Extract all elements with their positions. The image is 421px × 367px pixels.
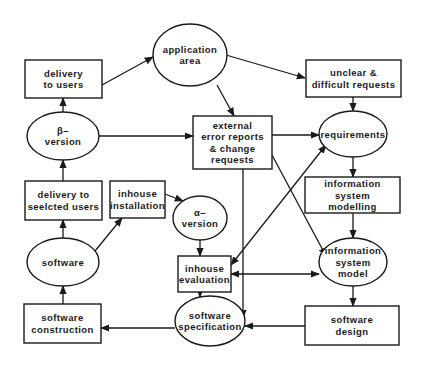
delivery-to-selected-users-label: delivery to xyxy=(38,189,90,200)
software-construction-label: software xyxy=(41,312,83,323)
external-error-reports-label: & change xyxy=(210,143,256,154)
inhouse-installation-label: installation xyxy=(110,200,165,211)
edge-inhouse-installation-to-alpha-version xyxy=(165,194,183,201)
software-design-label: software xyxy=(331,314,373,325)
inhouse-evaluation-label: evaluation xyxy=(179,274,230,285)
software-label: software xyxy=(42,257,84,268)
software-lifecycle-diagram: applicationareadeliveryto usersunclear &… xyxy=(0,0,421,367)
software-design-label: design xyxy=(335,326,368,337)
nodes-layer: applicationareadeliveryto usersunclear &… xyxy=(24,24,401,346)
information-system-modelling-label: system xyxy=(335,190,370,201)
node-information-system-model: informationsystemmodel xyxy=(319,238,387,286)
node-software: software xyxy=(27,238,99,286)
node-external-error-reports: externalerror reports& changerequests xyxy=(193,116,272,169)
node-inhouse-installation: inhouseinstallation xyxy=(110,181,165,218)
information-system-modelling-label: information xyxy=(324,178,381,189)
alpha-version-label: version xyxy=(182,218,219,229)
unclear-requests-label: difficult requests xyxy=(312,79,396,90)
node-software-construction: softwareconstruction xyxy=(24,304,101,343)
node-inhouse-evaluation: inhouseevaluation xyxy=(178,256,231,292)
node-unclear-requests: unclear &difficult requests xyxy=(306,60,401,97)
node-alpha-version: α–version xyxy=(173,196,227,240)
information-system-model-label: information xyxy=(325,245,382,256)
node-software-specification: softwarespecification xyxy=(175,296,245,346)
node-software-design: softwaredesign xyxy=(305,306,399,345)
information-system-modelling-label: modelling xyxy=(328,201,376,212)
inhouse-evaluation-label: inhouse xyxy=(185,263,224,274)
application-area-label: application xyxy=(163,44,218,55)
alpha-version-label: α– xyxy=(194,207,206,218)
software-construction-label: construction xyxy=(31,324,93,335)
external-error-reports-label: requests xyxy=(211,154,254,165)
edge-application-area-to-external-error-reports xyxy=(217,85,234,116)
beta-version-label: β– xyxy=(57,125,69,136)
application-area-label: area xyxy=(179,55,200,66)
unclear-requests-label: unclear & xyxy=(330,67,377,78)
information-system-model-label: model xyxy=(338,268,368,279)
external-error-reports-label: error reports xyxy=(201,131,264,142)
information-system-model-label: system xyxy=(335,257,370,268)
delivery-to-users-label: delivery xyxy=(44,68,83,79)
delivery-to-selected-users-label: seelcted users xyxy=(28,201,100,212)
node-delivery-to-selected-users: delivery toseelcted users xyxy=(25,181,102,220)
node-delivery-to-users: deliveryto users xyxy=(25,60,102,98)
requirements-label: requirements xyxy=(321,129,386,140)
software-specification-label: software xyxy=(189,310,231,321)
edge-application-area-to-unclear-requests xyxy=(226,55,305,78)
node-application-area: applicationarea xyxy=(153,24,227,86)
external-error-reports-label: external xyxy=(213,120,253,131)
node-information-system-modelling: informationsystemmodelling xyxy=(305,177,400,213)
node-beta-version: β–version xyxy=(27,112,99,160)
node-requirements: requirements xyxy=(319,111,387,157)
edge-software-to-inhouse-installation xyxy=(95,218,122,251)
beta-version-label: version xyxy=(45,136,82,147)
inhouse-installation-label: inhouse xyxy=(118,188,157,199)
edge-delivery-to-users-to-application-area xyxy=(102,57,153,85)
software-specification-label: specification xyxy=(178,321,241,332)
delivery-to-users-label: to users xyxy=(43,79,83,90)
